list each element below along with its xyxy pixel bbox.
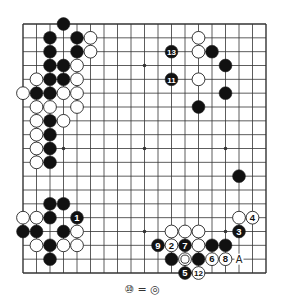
move-number: 1 [74,212,80,223]
star-point [224,147,228,151]
black-stone [233,170,246,183]
black-stone [165,253,178,266]
point-label: A [236,254,243,265]
black-stone [192,101,205,114]
black-stone: 5 [179,267,192,280]
black-stone [44,211,57,224]
black-stone [44,45,57,58]
black-stone: 11 [165,73,178,86]
white-stone [71,73,84,86]
white-stone [30,211,43,224]
black-stone [17,225,30,238]
point-labels: A [235,254,244,265]
white-stone [192,73,205,86]
white-stone: 6 [206,253,219,266]
black-stone [44,114,57,127]
move-number: 2 [169,240,174,251]
white-stone [192,31,205,44]
white-stone [71,225,84,238]
black-stone: 1 [71,211,84,224]
black-stone [30,87,43,100]
black-stone: 13 [165,45,178,58]
white-stone [71,239,84,252]
star-point [143,147,147,151]
go-board: 113114392768512 A [0,0,284,301]
move-number: 8 [223,253,228,264]
white-stone [179,253,192,266]
white-stone [192,239,205,252]
black-stone [57,225,70,238]
white-stone [57,114,70,127]
black-stone [44,128,57,141]
white-stone [44,101,57,114]
star-point [143,230,147,234]
move-number: 5 [182,267,188,278]
move-number: 9 [155,240,160,251]
white-stone [233,211,246,224]
white-stone [30,239,43,252]
black-stone [57,73,70,86]
white-stone: 2 [165,239,178,252]
move-number: 3 [236,226,241,237]
diagram-caption: ⑩ = ◎ [0,283,284,296]
white-stone [192,45,205,58]
white-stone [30,73,43,86]
move-number: 6 [209,253,214,264]
black-stone [57,59,70,72]
black-stone [44,253,57,266]
white-stone [17,211,30,224]
black-stone [71,45,84,58]
black-stone [30,225,43,238]
white-stone [30,142,43,155]
black-stone [71,31,84,44]
white-stone [17,87,30,100]
black-stone [219,87,232,100]
black-stone [44,31,57,44]
white-stone [30,114,43,127]
white-stone [57,87,70,100]
white-stone: 12 [192,267,205,280]
white-stone [71,101,84,114]
white-stone [165,225,178,238]
black-stone [57,18,70,31]
black-stone [44,156,57,169]
white-stone [57,239,70,252]
white-stone [179,225,192,238]
black-stone: 7 [179,239,192,252]
black-stone [44,197,57,210]
move-number: 11 [167,76,176,85]
black-stone [44,87,57,100]
star-point [224,230,228,234]
move-number: 12 [194,269,203,278]
black-stone [219,59,232,72]
white-stone [192,225,205,238]
white-stone: 8 [219,253,232,266]
black-stone [44,142,57,155]
white-stone [30,128,43,141]
black-stone: 3 [233,225,246,238]
move-number: 4 [250,212,256,223]
white-stone [71,87,84,100]
black-stone [206,239,219,252]
black-stone [44,59,57,72]
white-stone [71,59,84,72]
black-stone [44,239,57,252]
white-stone [30,101,43,114]
white-stone: 4 [246,211,259,224]
white-stone [84,45,97,58]
black-stone [206,45,219,58]
star-point [143,64,147,68]
move-number: 7 [182,240,187,251]
white-stone [84,31,97,44]
white-stone [30,156,43,169]
black-stone: 9 [152,239,165,252]
black-stone [219,239,232,252]
black-stone [44,73,57,86]
star-point [62,147,66,151]
black-stone [192,253,205,266]
black-stone [57,197,70,210]
move-number: 13 [167,48,176,57]
